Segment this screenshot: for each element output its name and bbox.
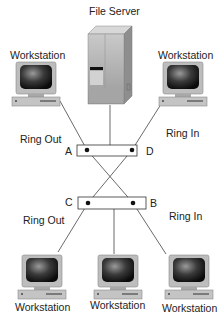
workstation-label: Workstation bbox=[10, 49, 65, 61]
file-server-icon bbox=[88, 26, 132, 104]
workstation-icon bbox=[18, 255, 66, 299]
port-c-label: C bbox=[65, 196, 73, 208]
ring-in-label: Ring In bbox=[166, 127, 199, 139]
port-a-label: A bbox=[65, 145, 72, 157]
ring-out-label: Ring Out bbox=[23, 214, 64, 226]
ring-in-label: Ring In bbox=[169, 210, 202, 222]
workstation-icon bbox=[165, 255, 213, 299]
workstation-label: Workstation bbox=[162, 302, 217, 314]
workstation-icon bbox=[94, 255, 142, 299]
port-d-label: D bbox=[146, 145, 154, 157]
file-server-label: File Server bbox=[89, 5, 140, 17]
ring-topology-diagram bbox=[0, 0, 224, 320]
ring-out-label: Ring Out bbox=[20, 133, 61, 145]
workstation-label: Workstation bbox=[15, 301, 70, 313]
workstation-icon bbox=[12, 62, 60, 106]
workstation-label: Workstation bbox=[90, 299, 145, 311]
workstation-label: Workstation bbox=[158, 49, 213, 61]
connection-lines bbox=[58, 101, 166, 254]
port-b-label: B bbox=[150, 197, 157, 209]
workstation-icon bbox=[159, 62, 207, 106]
